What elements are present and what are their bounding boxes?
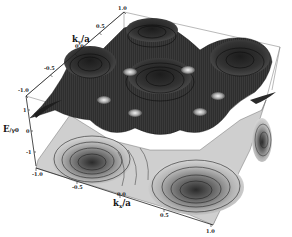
ky-tick-label: 0.5 <box>96 23 105 29</box>
z-tick-label: 0 <box>26 128 30 134</box>
kx-axis-label: kx/a <box>113 198 131 209</box>
dome-top-right <box>210 40 270 76</box>
ky-tick-label: -1.0 <box>18 87 29 93</box>
dome-center <box>128 58 192 94</box>
upper-band-surface <box>30 18 276 135</box>
lower-well-right <box>148 159 244 215</box>
ky-tick-label: 1.0 <box>118 5 127 11</box>
z-tick-label: 1 <box>23 107 26 113</box>
dome-top-center <box>126 18 178 42</box>
kx-tick-label: 0.5 <box>160 212 169 218</box>
kx-tick-label: -1.0 <box>32 171 43 177</box>
z-tick-label: -1 <box>26 149 32 155</box>
ky-tick-label: -0.5 <box>44 65 55 71</box>
kx-tick-label: 0.0 <box>117 191 126 197</box>
surface-wing-right <box>250 92 276 104</box>
z-axis-label: E/γ0 <box>3 124 19 134</box>
kx-tick-label: 1.0 <box>206 228 215 234</box>
kx-tick-label: -0.5 <box>72 184 83 190</box>
dome-top-left <box>64 46 116 78</box>
surface-plot: -1.0 -0.5 0.0 0.5 1.0 ky/a 1 0 -1 E/γ0 -… <box>0 0 292 237</box>
z-axis: 1 0 -1 E/γ0 <box>3 96 36 166</box>
